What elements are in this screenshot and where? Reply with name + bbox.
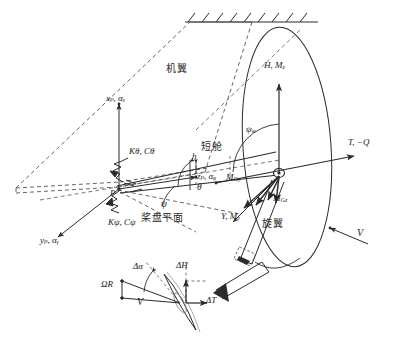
- label-Y-My: Y, My: [221, 212, 240, 221]
- label-pitch-spring: Kθ, Cθ: [129, 147, 154, 156]
- inset-delta-alpha: [144, 272, 152, 292]
- label-inset-omega-R: ΩR: [101, 280, 113, 289]
- wing-planform: [16, 22, 252, 232]
- label-T-minusQ: T, −Q: [348, 138, 369, 147]
- label-yaw-spring: Kψ, Cψ: [108, 218, 136, 227]
- detail-inset: [121, 262, 207, 332]
- label-pivot-point: P: [110, 189, 115, 198]
- label-rotor: 旋翼: [262, 219, 283, 229]
- psi-w-arc: [233, 124, 279, 172]
- label-psi-angle: ψ: [161, 200, 167, 210]
- label-H-Mz: H, Mz: [264, 61, 285, 70]
- label-freestream-velocity: V: [357, 228, 363, 238]
- label-inset-delta-H: ΔH: [176, 261, 188, 270]
- fixed-support-wall: [185, 13, 318, 22]
- label-psi-w-angle: ψw: [246, 125, 256, 134]
- detail-callout-arrow: [213, 262, 269, 302]
- label-M-Gz: MGz: [273, 194, 287, 203]
- label-axis-x: xₚ, αₓ: [106, 94, 125, 103]
- label-wing: 机翼: [166, 64, 187, 74]
- figure-canvas: 机翼 短舱 旋翼 桨盘平面 P xₚ, αₓ yₚ, αᵧ zₚ, αᵩ Kθ,…: [0, 0, 398, 347]
- label-h-dimension: h: [192, 152, 197, 161]
- label-disc-plane: 桨盘平面: [141, 213, 183, 223]
- label-inset-velocity: V: [137, 297, 143, 307]
- label-inset-delta-T: ΔT: [206, 296, 216, 305]
- label-axis-z: zₚ, αᵩ: [197, 172, 216, 181]
- label-inset-delta-alpha: Δα: [133, 262, 143, 271]
- label-axis-y: yₚ, αᵧ: [40, 236, 59, 245]
- label-theta-angle: θ: [197, 183, 202, 193]
- label-nacelle: 短舱: [201, 142, 222, 152]
- label-M-Gy: MGy: [226, 173, 241, 182]
